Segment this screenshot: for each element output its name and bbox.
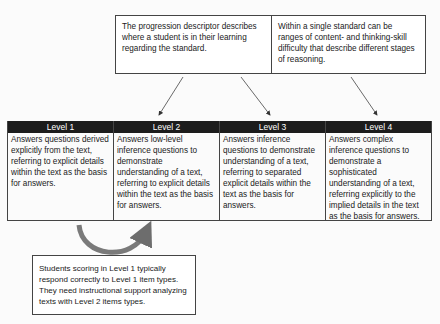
level-2-header: Level 2: [114, 121, 219, 133]
level-4-column: Level 4 Answers complex inference questi…: [325, 121, 432, 221]
level-1-column: Level 1 Answers questions derived explic…: [7, 121, 113, 221]
level-3-description: Answers inference questions to demonstra…: [220, 133, 325, 212]
level-4-header: Level 4: [326, 121, 431, 133]
level-4-description: Answers complex inference questions to d…: [326, 133, 431, 223]
level-1-description: Answers questions derived explicitly fro…: [8, 133, 113, 190]
curved-arrow-icon: [79, 225, 146, 252]
level-2-description: Answers low-level inference questions to…: [114, 133, 219, 212]
arrow-to-level-2-icon: [159, 77, 183, 115]
arrow-to-level-3-icon: [241, 77, 270, 115]
arrow-to-level-4-icon: [351, 77, 377, 115]
level-3-column: Level 3 Answers inference questions to d…: [219, 121, 325, 221]
level-2-column: Level 2 Answers low-level inference ques…: [113, 121, 219, 221]
level-1-header: Level 1: [8, 121, 113, 133]
instructional-support-note: Students scoring in Level 1 typically re…: [32, 255, 196, 315]
level-3-header: Level 3: [220, 121, 325, 133]
levels-table: Level 1 Answers questions derived explic…: [7, 121, 432, 221]
